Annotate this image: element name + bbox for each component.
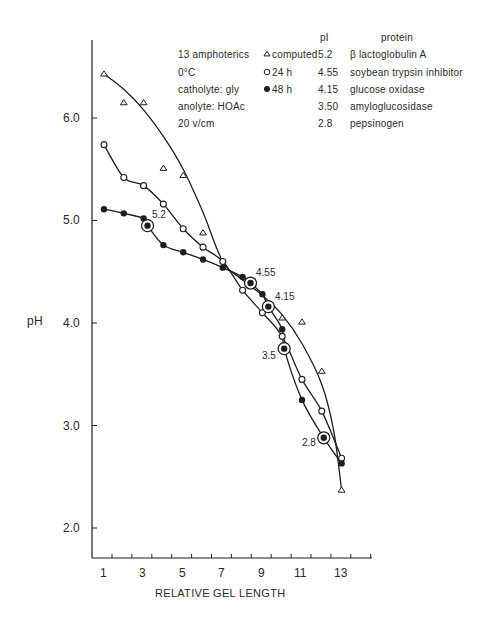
protein-name: β lactoglobulin A — [350, 49, 426, 60]
open-circle-marker-24h — [160, 201, 166, 207]
marker-label-4.55: 4.55 — [256, 267, 275, 278]
protein-name: pepsinogen — [350, 118, 404, 129]
marker-label-5.2: 5.2 — [152, 209, 166, 220]
marker-label-3.5: 3.5 — [262, 350, 276, 361]
y-tick-label: 2.0 — [63, 521, 80, 535]
triangle-marker-computed — [338, 487, 345, 492]
filled-circle-marker-48h — [239, 274, 245, 280]
protein-marker-dot — [144, 222, 150, 228]
y-tick-label: 3.0 — [63, 419, 80, 433]
legend-label-24h: 24 h — [272, 67, 292, 78]
legend-open-circle-icon — [264, 69, 270, 75]
y-tick-label: 6.0 — [63, 111, 80, 125]
y-tick-label: 4.0 — [63, 316, 80, 330]
marker-label-2.8: 2.8 — [302, 437, 316, 448]
pI-value: 2.8 — [318, 118, 333, 129]
pI-value: 4.55 — [318, 67, 338, 78]
protein-marker-dot — [265, 303, 271, 309]
triangle-marker-computed — [200, 230, 207, 235]
x-tick-label: 9 — [258, 566, 265, 580]
marker-label-4.15: 4.15 — [275, 291, 294, 302]
filled-circle-marker-48h — [259, 291, 265, 297]
condition-amphoterics: 13 amphoterics — [178, 49, 249, 60]
triangle-marker-computed — [101, 71, 108, 76]
triangle-marker-computed — [120, 100, 127, 105]
curve-48h — [104, 209, 342, 463]
filled-circle-marker-48h — [220, 264, 226, 270]
open-circle-marker-24h — [220, 259, 226, 265]
filled-circle-marker-48h — [279, 326, 285, 332]
protein-marker-dot — [281, 345, 287, 351]
triangle-marker-computed — [160, 165, 167, 170]
filled-circle-marker-48h — [338, 460, 344, 466]
condition-anolyte: anolyte: HOAc — [178, 101, 245, 112]
triangle-marker-computed — [140, 100, 147, 105]
pI-header: pI — [320, 32, 329, 43]
condition-temperature: 0°C — [178, 67, 195, 78]
filled-circle-marker-48h — [160, 242, 166, 248]
x-tick-label: 11 — [294, 566, 306, 580]
condition-catholyte: catholyte: gly — [178, 84, 239, 95]
x-tick-label: 1 — [100, 566, 107, 580]
open-circle-marker-24h — [240, 287, 246, 293]
x-tick-label: 13 — [334, 566, 347, 580]
pI-value: 3.50 — [318, 101, 338, 112]
open-circle-marker-24h — [121, 174, 127, 180]
series-markers — [101, 71, 345, 492]
filled-circle-marker-48h — [180, 249, 186, 255]
x-axis-title: RELATIVE GEL LENGTH — [155, 587, 285, 599]
pI-value: 5.2 — [318, 49, 333, 60]
filled-circle-marker-48h — [299, 397, 305, 403]
open-circle-marker-24h — [101, 142, 107, 148]
open-circle-marker-24h — [141, 183, 147, 189]
legend-label-48h: 48 h — [272, 84, 292, 95]
protein-name: soybean trypsin inhibitor — [350, 67, 463, 78]
computed-curve — [104, 74, 342, 490]
protein-marker-dot — [321, 435, 327, 441]
filled-circle-marker-48h — [101, 206, 107, 212]
filled-circle-marker-48h — [200, 256, 206, 262]
open-circle-marker-24h — [279, 333, 285, 339]
legend-label-computed: computed — [272, 49, 318, 60]
condition-field-strength: 20 v/cm — [178, 118, 214, 129]
pI-value: 4.15 — [318, 84, 338, 95]
protein-header: protein — [381, 32, 413, 43]
open-circle-marker-24h — [200, 244, 206, 250]
open-circle-marker-24h — [180, 226, 186, 232]
curve-24h — [104, 145, 342, 459]
series-curves — [104, 74, 342, 490]
x-tick-label: 3 — [139, 566, 146, 580]
filled-circle-marker-48h — [121, 210, 127, 216]
legend-filled-circle-icon — [264, 86, 270, 92]
y-tick-label: 5.0 — [63, 213, 80, 227]
y-axis-title: pH — [27, 314, 43, 328]
protein-name: amyloglucosidase — [350, 101, 433, 112]
legend-triangle-icon — [264, 51, 270, 56]
x-tick-label: 5 — [179, 566, 186, 580]
x-tick-label: 7 — [218, 566, 225, 580]
open-circle-marker-24h — [299, 376, 305, 382]
triangle-marker-computed — [299, 319, 306, 324]
legend-markers — [264, 51, 270, 92]
open-circle-marker-24h — [319, 408, 325, 414]
protein-marker-dot — [247, 280, 253, 286]
protein-name: glucose oxidase — [350, 84, 425, 95]
triangle-marker-computed — [318, 368, 325, 373]
